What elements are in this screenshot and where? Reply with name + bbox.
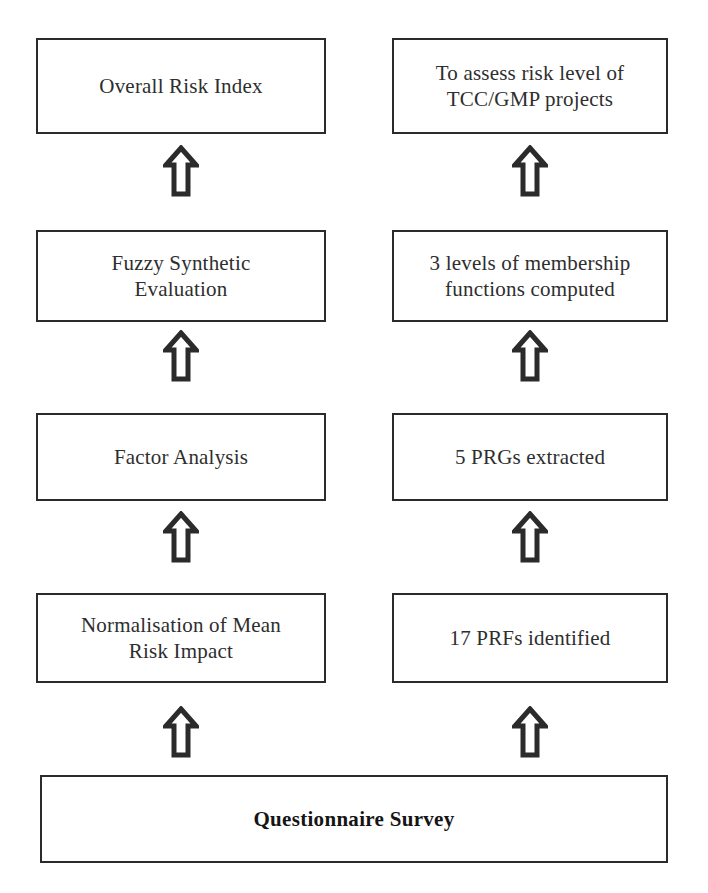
- box-fuzzy-synthetic-evaluation: Fuzzy Synthetic Evaluation: [36, 230, 326, 322]
- box-factor-analysis-label: Factor Analysis: [106, 444, 256, 470]
- flowchart-canvas: Overall Risk Index To assess risk level …: [0, 0, 708, 893]
- arrow-right-base-to-row4: [512, 706, 548, 758]
- box-membership-functions-label: 3 levels of membership functions compute…: [422, 250, 639, 303]
- box-normalisation-mean-risk-impact-label: Normalisation of Mean Risk Impact: [73, 612, 289, 665]
- box-prgs-extracted: 5 PRGs extracted: [392, 413, 668, 501]
- arrow-right-row2-to-row1: [512, 145, 548, 197]
- arrow-right-row4-to-row3: [512, 511, 548, 563]
- box-normalisation-mean-risk-impact: Normalisation of Mean Risk Impact: [36, 593, 326, 683]
- box-prfs-identified-label: 17 PRFs identified: [441, 625, 618, 651]
- arrow-right-row3-to-row2: [512, 330, 548, 382]
- box-prfs-identified: 17 PRFs identified: [392, 593, 668, 683]
- box-membership-functions: 3 levels of membership functions compute…: [392, 230, 668, 322]
- arrow-left-row3-to-row2: [163, 330, 199, 382]
- box-questionnaire-survey-label: Questionnaire Survey: [245, 806, 462, 832]
- box-fuzzy-synthetic-evaluation-label: Fuzzy Synthetic Evaluation: [104, 250, 259, 303]
- box-assess-risk-level-label: To assess risk level of TCC/GMP projects: [428, 60, 633, 113]
- box-overall-risk-index-label: Overall Risk Index: [91, 73, 270, 99]
- arrow-left-row2-to-row1: [163, 145, 199, 197]
- arrow-left-row4-to-row3: [163, 511, 199, 563]
- box-questionnaire-survey: Questionnaire Survey: [40, 775, 668, 863]
- box-overall-risk-index: Overall Risk Index: [36, 38, 326, 134]
- arrow-left-base-to-row4: [163, 706, 199, 758]
- box-factor-analysis: Factor Analysis: [36, 413, 326, 501]
- box-prgs-extracted-label: 5 PRGs extracted: [447, 444, 613, 470]
- box-assess-risk-level: To assess risk level of TCC/GMP projects: [392, 38, 668, 134]
